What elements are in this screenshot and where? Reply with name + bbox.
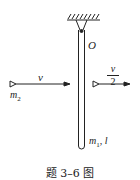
left-velocity-label: v <box>38 72 43 83</box>
rod-length-symbol: , l <box>100 135 108 146</box>
ball-mass-label: m2 <box>10 90 21 103</box>
ceiling-hatch <box>67 14 100 20</box>
rod <box>79 30 85 149</box>
pivot-support <box>76 20 87 33</box>
ball-mass-subscript: 2 <box>17 95 21 103</box>
figure-caption: 题 3–6 图 <box>0 164 140 180</box>
rod-mass-length-label: m1, l <box>89 136 108 149</box>
diagram-figure <box>0 0 140 180</box>
right-velocity-denominator: 2 <box>111 76 116 87</box>
right-velocity-label: v 2 <box>107 64 119 87</box>
right-velocity-numerator: v <box>111 63 115 74</box>
pivot-label: O <box>88 40 96 51</box>
